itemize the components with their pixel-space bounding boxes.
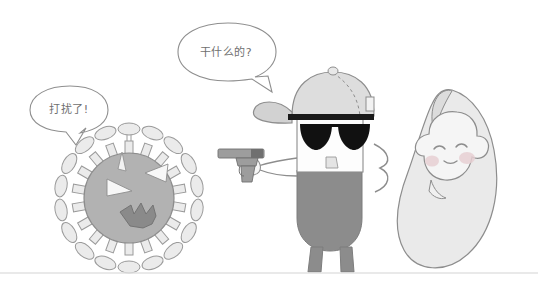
pistol-rear-serrations <box>251 149 263 158</box>
gunman-right-leg <box>340 247 354 272</box>
comic-scene: 打扰了! 干什么的? <box>0 0 538 288</box>
gunman-cap-button <box>328 67 338 75</box>
pistol-frame <box>236 158 258 166</box>
gunman-body <box>297 170 362 251</box>
pistol-grip <box>241 166 255 182</box>
gunman-nose <box>326 157 338 168</box>
gunman-cap-band <box>288 114 374 120</box>
gunman-cap-side-patch <box>366 97 374 111</box>
virus-bubble-text: 打扰了! <box>49 102 88 116</box>
gunman-glasses-bridge <box>330 124 340 127</box>
gunman-left-leg <box>308 247 323 272</box>
baby-left-blush <box>425 156 439 167</box>
comic-canvas: 打扰了! 干什么的? <box>0 0 538 288</box>
gunman-bubble-text: 干什么的? <box>200 45 252 59</box>
baby-right-blush <box>459 152 475 164</box>
